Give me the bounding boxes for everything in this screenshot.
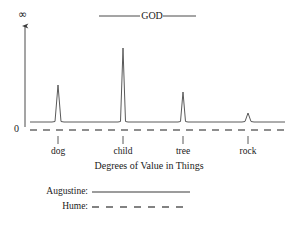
god-annotation-label: GOD [140, 11, 164, 21]
x-label-child: child [103, 147, 143, 157]
legend-label-augustine: Augustine: [18, 187, 88, 197]
chart-figure: GOD ∞ 0 dog child tree rock Degrees of V… [0, 0, 298, 225]
x-label-dog: dog [38, 147, 78, 157]
x-axis-title: Degrees of Value in Things [0, 161, 298, 171]
y-axis-infinity-label: ∞ [18, 9, 27, 20]
x-label-rock: rock [228, 147, 268, 157]
legend-label-hume: Hume: [18, 202, 88, 212]
y-axis-zero-label: 0 [14, 124, 19, 134]
x-label-tree: tree [163, 147, 203, 157]
series-augustine-line [30, 48, 285, 122]
